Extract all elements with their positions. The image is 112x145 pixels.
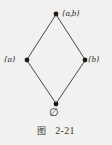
node-right-dot — [83, 58, 88, 63]
diagram-edges — [28, 16, 84, 102]
diagram-nodes — [25, 12, 88, 107]
figure-page: {a,b} {a} {b} ∅ 图2-21 — [0, 0, 112, 145]
caption-label: 图 — [37, 126, 46, 136]
edge-left-to-top — [28, 16, 55, 58]
figure-caption: 图2-21 — [0, 124, 112, 137]
edge-bottom-to-right — [57, 62, 84, 102]
edge-right-to-top — [57, 16, 84, 58]
node-label-right: {b} — [88, 54, 99, 64]
caption-number: 2-21 — [55, 125, 75, 136]
node-label-top: {a,b} — [62, 8, 79, 18]
node-label-bottom-emptyset: ∅ — [49, 106, 59, 119]
edge-bottom-to-left — [28, 62, 55, 102]
hasse-diagram-figure: {a,b} {a} {b} ∅ — [0, 0, 112, 122]
node-top-dot — [54, 12, 59, 17]
node-label-left: {a} — [4, 54, 15, 64]
node-left-dot — [25, 58, 30, 63]
